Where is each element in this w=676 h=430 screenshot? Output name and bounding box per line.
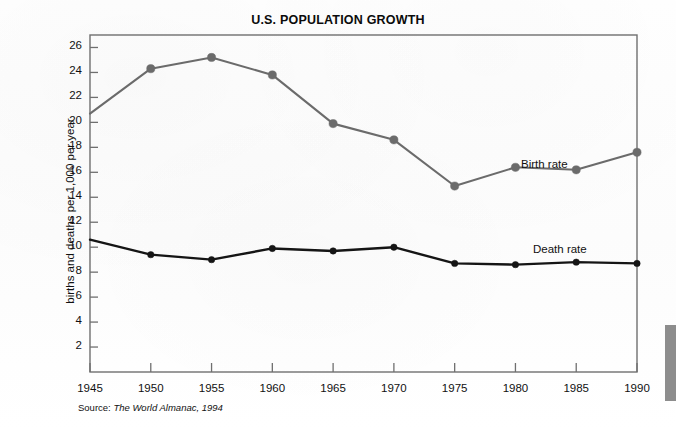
y-tick-label: 4 bbox=[56, 314, 82, 326]
chart-page: U.S. POPULATION GROWTH births and deaths… bbox=[0, 0, 676, 430]
y-tick-label: 10 bbox=[56, 239, 82, 251]
x-tick-label: 1955 bbox=[187, 382, 237, 394]
x-tick-label: 1970 bbox=[369, 382, 419, 394]
y-axis-ticks bbox=[90, 47, 98, 347]
y-tick-label: 16 bbox=[56, 164, 82, 176]
source-note: Source: The World Almanac, 1994 bbox=[78, 402, 223, 413]
y-tick-label: 6 bbox=[56, 289, 82, 301]
x-tick-label: 1985 bbox=[551, 382, 601, 394]
y-tick-label: 8 bbox=[56, 264, 82, 276]
y-tick-label: 26 bbox=[56, 39, 82, 51]
y-tick-label: 24 bbox=[56, 64, 82, 76]
x-axis-ticks bbox=[90, 363, 637, 372]
y-tick-label: 20 bbox=[56, 114, 82, 126]
x-tick-label: 1980 bbox=[490, 382, 540, 394]
x-tick-label: 1965 bbox=[308, 382, 358, 394]
series-label-death-rate: Death rate bbox=[533, 243, 587, 255]
page-edge-artifact bbox=[665, 325, 676, 401]
x-tick-label: 1950 bbox=[126, 382, 176, 394]
y-tick-label: 22 bbox=[56, 89, 82, 101]
source-work: The World Almanac, 1994 bbox=[113, 402, 222, 413]
series-label-birth-rate: Birth rate bbox=[521, 158, 568, 170]
x-tick-label: 1960 bbox=[247, 382, 297, 394]
y-tick-label: 14 bbox=[56, 189, 82, 201]
x-tick-label: 1975 bbox=[430, 382, 480, 394]
y-tick-label: 2 bbox=[56, 339, 82, 351]
y-tick-label: 12 bbox=[56, 214, 82, 226]
plot-frame bbox=[90, 35, 637, 372]
chart-plot-area bbox=[0, 0, 676, 430]
y-tick-label: 18 bbox=[56, 139, 82, 151]
x-tick-label: 1945 bbox=[65, 382, 115, 394]
source-prefix: Source: bbox=[78, 402, 111, 413]
x-tick-label: 1990 bbox=[612, 382, 662, 394]
